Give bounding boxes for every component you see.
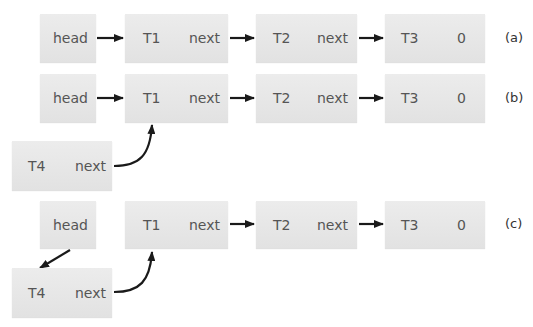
node-t3-c: T30 — [385, 201, 485, 248]
node-name: T3 — [401, 30, 418, 46]
node-t2-b: T2next — [256, 74, 357, 122]
node-name: T4 — [28, 285, 45, 301]
node-name: T1 — [143, 90, 160, 106]
node-name: T3 — [401, 217, 418, 233]
node-ptr: next — [75, 158, 106, 174]
node-t3-b: T30 — [385, 74, 485, 122]
head-label: head — [53, 90, 88, 106]
head-box-b: head — [40, 74, 96, 122]
row-label-b: (b) — [505, 90, 523, 105]
node-ptr: next — [189, 217, 220, 233]
row-label-c: (c) — [505, 216, 522, 231]
row-label-a: (a) — [505, 30, 523, 45]
node-t2-c: T2next — [256, 201, 357, 248]
head-box-c: head — [40, 201, 96, 248]
node-name: T4 — [28, 158, 45, 174]
node-ptr: next — [317, 30, 348, 46]
node-ptr: 0 — [457, 217, 466, 233]
node-t4-b: T4next — [12, 141, 112, 190]
node-t1-c: T1next — [125, 201, 228, 248]
node-ptr: next — [189, 90, 220, 106]
node-name: T1 — [143, 217, 160, 233]
node-name: T2 — [273, 217, 290, 233]
node-ptr: next — [317, 217, 348, 233]
node-t2-a: T2next — [256, 14, 357, 62]
node-name: T3 — [401, 90, 418, 106]
head-label: head — [53, 30, 88, 46]
node-ptr: 0 — [457, 90, 466, 106]
node-ptr: next — [317, 90, 348, 106]
head-box-a: head — [40, 14, 96, 62]
head-label: head — [53, 217, 88, 233]
node-ptr: next — [189, 30, 220, 46]
node-name: T2 — [273, 90, 290, 106]
node-t1-b: T1next — [125, 74, 228, 122]
node-t3-a: T30 — [385, 14, 485, 62]
node-name: T2 — [273, 30, 290, 46]
node-t4-c: T4next — [12, 268, 112, 317]
node-name: T1 — [143, 30, 160, 46]
node-ptr: next — [75, 285, 106, 301]
node-t1-a: T1next — [125, 14, 228, 62]
node-ptr: 0 — [457, 30, 466, 46]
